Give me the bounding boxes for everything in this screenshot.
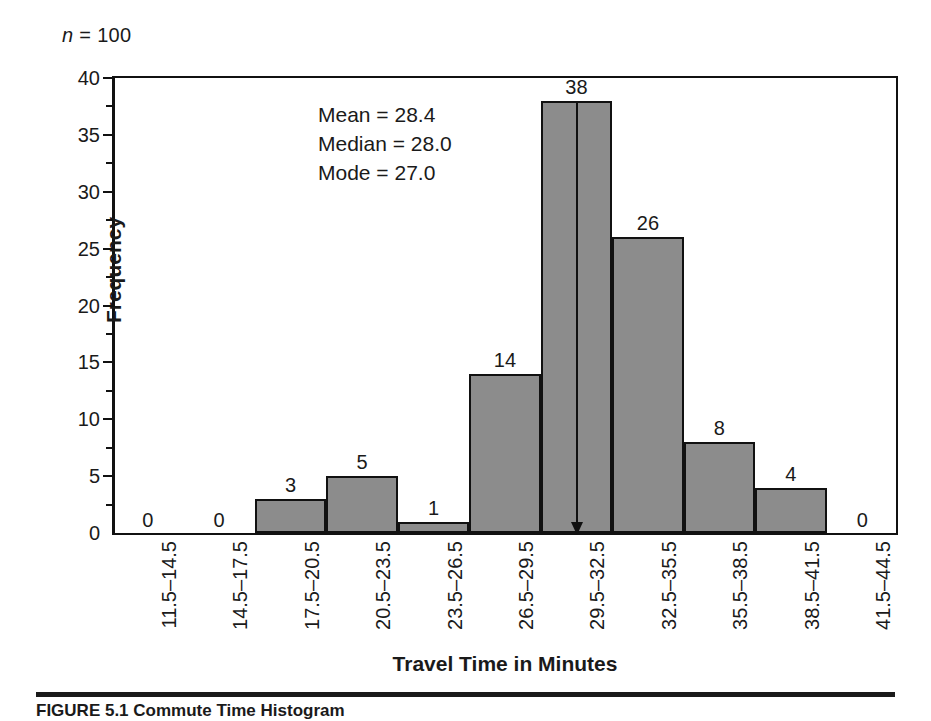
summary-statistic-line: Mode = 27.0 — [318, 158, 452, 187]
histogram-bar: 3 — [255, 499, 326, 533]
bar-value-label: 8 — [714, 417, 725, 440]
y-tick-label: 25 — [78, 237, 100, 260]
y-tick-label: 35 — [78, 123, 100, 146]
summary-statistics-annotation: Mean = 28.4Median = 28.0Mode = 27.0 — [318, 100, 452, 187]
y-tick-label: 30 — [78, 180, 100, 203]
histogram-bar: 4 — [755, 488, 826, 534]
figure-caption: FIGURE 5.1 Commute Time Histogram — [36, 701, 345, 721]
bar-value-label: 4 — [785, 463, 796, 486]
y-tick-label: 5 — [89, 465, 100, 488]
histogram-bar: 5 — [326, 476, 397, 533]
x-tick-label: 14.5–17.5 — [229, 541, 251, 651]
y-tick-label: 10 — [78, 408, 100, 431]
bar-value-label: 3 — [285, 474, 296, 497]
x-tick-label: 29.5–32.5 — [586, 541, 608, 651]
histogram-bar: 1 — [398, 522, 469, 533]
bar-value-label: 0 — [214, 509, 225, 532]
sample-size-value: = 100 — [73, 24, 131, 46]
bar-value-label: 14 — [494, 349, 516, 372]
summary-statistic-line: Mean = 28.4 — [318, 100, 452, 129]
arrow-head-icon — [571, 522, 583, 535]
caption-rule — [36, 692, 895, 697]
x-tick-label: 38.5–41.5 — [801, 541, 823, 651]
bar-value-label: 38 — [565, 76, 587, 99]
bar-value-label: 1 — [428, 497, 439, 520]
x-tick-label: 17.5–20.5 — [301, 541, 323, 651]
sample-size-note: n = 100 — [62, 24, 131, 47]
bar-value-label: 0 — [857, 509, 868, 532]
x-axis-title: Travel Time in Minutes — [112, 652, 898, 676]
histogram-bar: 14 — [469, 374, 540, 533]
x-tick-label: 23.5–26.5 — [444, 541, 466, 651]
bar-value-label: 26 — [637, 212, 659, 235]
x-tick-label: 32.5–35.5 — [658, 541, 680, 651]
x-axis-tick-labels: 11.5–14.514.5–17.517.5–20.520.5–23.523.5… — [112, 543, 898, 653]
x-tick-label: 35.5–38.5 — [729, 541, 751, 651]
histogram-bars: 00351143826840 — [112, 76, 898, 535]
histogram-bar: 8 — [684, 442, 755, 533]
histogram-bar: 26 — [612, 237, 683, 533]
bar-value-label: 0 — [142, 509, 153, 532]
y-tick-label: 40 — [78, 67, 100, 90]
summary-statistic-line: Median = 28.0 — [318, 129, 452, 158]
x-tick-label: 41.5–44.5 — [872, 541, 894, 651]
x-tick-label: 26.5–29.5 — [515, 541, 537, 651]
bar-value-label: 5 — [357, 451, 368, 474]
plot-area: Frequency 0510152025303540 0035114382684… — [112, 76, 898, 535]
sample-size-symbol: n — [62, 24, 73, 46]
distribution-center-arrow — [576, 101, 578, 533]
y-tick-label: 0 — [89, 522, 100, 545]
x-tick-label: 20.5–23.5 — [372, 541, 394, 651]
y-tick-label: 20 — [78, 294, 100, 317]
y-tick-label: 15 — [78, 351, 100, 374]
figure-caption-label: FIGURE 5.1 — [36, 701, 129, 720]
figure-caption-text: Commute Time Histogram — [133, 701, 344, 720]
x-tick-label: 11.5–14.5 — [158, 541, 180, 651]
